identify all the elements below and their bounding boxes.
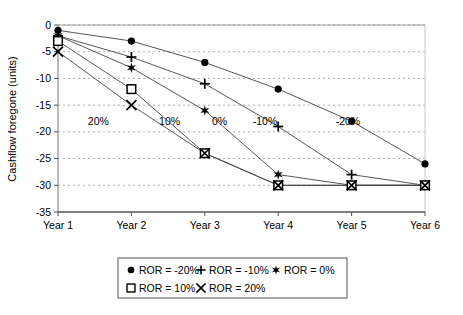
legend-item-label: ROR = 0% bbox=[284, 264, 334, 276]
x-tick-label: Year 5 bbox=[337, 219, 367, 231]
legend-item-label: ROR = -20% bbox=[139, 264, 199, 276]
x-tick-label: Year 3 bbox=[190, 219, 220, 231]
chart-legend: ROR = -20%ROR = -10%ROR = 0%ROR = 10%ROR… bbox=[118, 258, 347, 298]
cashflow-foregone-line-chart: 0-5-10-15-20-25-30-35 Year 1Year 2Year 3… bbox=[0, 0, 463, 315]
x-tick-label: Year 2 bbox=[116, 219, 146, 231]
x-tick-label: Year 1 bbox=[43, 219, 73, 231]
marker-filled-circle bbox=[128, 267, 135, 274]
legend-item-label: ROR = 20% bbox=[209, 282, 265, 294]
marker-filled-circle bbox=[421, 160, 428, 167]
y-tick-label: -35 bbox=[36, 206, 51, 218]
annotation-label: 20% bbox=[88, 115, 109, 127]
legend-item-0: ROR = -20% bbox=[128, 264, 199, 276]
marker-open-square bbox=[127, 85, 136, 94]
marker-open-square bbox=[54, 37, 63, 46]
y-axis-title: Cashflow foregone (units) bbox=[6, 56, 18, 181]
x-tick-label: Year 6 bbox=[410, 219, 440, 231]
y-tick-label: -5 bbox=[42, 45, 51, 57]
annotation-label: -20% bbox=[336, 115, 361, 127]
legend-item-label: ROR = -10% bbox=[209, 264, 269, 276]
marker-filled-circle bbox=[201, 59, 208, 66]
annotation-label: 0% bbox=[212, 115, 227, 127]
legend-item-label: ROR = 10% bbox=[139, 282, 195, 294]
y-tick-label: -10 bbox=[36, 72, 51, 84]
annotation-label: -10% bbox=[253, 115, 278, 127]
y-tick-label: -25 bbox=[36, 152, 51, 164]
y-tick-label: -30 bbox=[36, 179, 51, 191]
annotation-label: 10% bbox=[159, 115, 180, 127]
marker-filled-circle bbox=[128, 37, 135, 44]
x-tick-label: Year 4 bbox=[263, 219, 293, 231]
marker-filled-circle bbox=[275, 86, 282, 93]
y-tick-label: 0 bbox=[45, 19, 51, 31]
y-tick-label: -15 bbox=[36, 99, 51, 111]
marker-open-square bbox=[127, 284, 135, 292]
y-tick-label: -20 bbox=[36, 125, 51, 137]
chart-container: 0-5-10-15-20-25-30-35 Year 1Year 2Year 3… bbox=[0, 0, 463, 315]
